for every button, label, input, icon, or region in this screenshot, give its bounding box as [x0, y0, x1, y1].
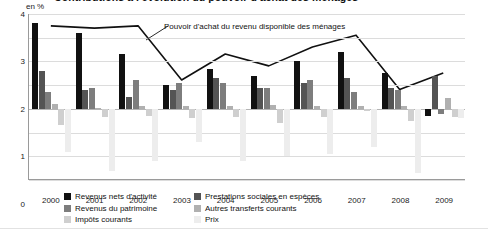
bar-2007-2 — [351, 92, 357, 109]
legend-label: Impôts courants — [75, 215, 132, 224]
bar-2003-3 — [183, 106, 189, 108]
bar-2002-3 — [139, 106, 145, 108]
bar-2006-3 — [314, 106, 320, 108]
bar-2001-1 — [82, 90, 88, 109]
bar-2002-5 — [152, 109, 158, 161]
bar-2008-1 — [388, 88, 394, 109]
bar-2000-0 — [32, 23, 38, 108]
bar-2005-1 — [257, 88, 263, 109]
legend-swatch-icon — [194, 193, 201, 200]
legend-swatch-icon — [194, 216, 201, 223]
x-axis-tick-2008: 2008 — [392, 196, 410, 205]
bar-2000-4 — [58, 109, 64, 126]
legend-label: Autres transferts courants — [205, 204, 297, 213]
legend-label: Prestations sociales en espèces — [205, 192, 319, 201]
chart-plot-area: 43210–1–2–3 2000200120022003200420052006… — [28, 14, 465, 180]
bar-2008-0 — [382, 73, 388, 109]
y-axis-tick: 2 — [21, 104, 25, 113]
legend-item-left-1[interactable]: Revenus du patrimoine — [64, 203, 157, 215]
bar-group-2005 — [248, 14, 292, 179]
bar-2009-2 — [438, 109, 444, 114]
bar-2001-5 — [109, 109, 115, 171]
bar-2001-2 — [89, 88, 95, 109]
bar-group-2009 — [422, 14, 466, 179]
bar-2005-0 — [251, 76, 257, 109]
bar-2009-1 — [432, 76, 438, 109]
bar-2005-4 — [277, 109, 283, 123]
bar-2008-3 — [401, 106, 407, 108]
bar-2001-4 — [102, 109, 108, 117]
bar-2008-4 — [408, 109, 414, 121]
bar-2005-3 — [270, 105, 276, 109]
y-axis-tick: 4 — [21, 10, 25, 19]
legend-item-right-2[interactable]: Prix — [194, 214, 319, 226]
bar-2002-2 — [133, 80, 139, 108]
bar-2004-3 — [227, 106, 233, 108]
bar-2004-2 — [220, 83, 226, 109]
annotation-label: Pouvoir d'achat du revenu disponible des… — [164, 22, 345, 31]
bar-2003-0 — [163, 85, 169, 109]
bar-2007-4 — [364, 109, 370, 111]
legend-item-left-0[interactable]: Revenus nets d'activité — [64, 191, 157, 203]
bar-2008-2 — [395, 90, 401, 109]
bar-2007-5 — [371, 109, 377, 147]
bar-2009-0 — [425, 109, 431, 116]
footer-divider — [0, 228, 488, 229]
bar-2006-0 — [294, 61, 300, 108]
bar-2006-2 — [307, 80, 313, 108]
legend-swatch-icon — [64, 193, 71, 200]
bar-2009-5 — [458, 109, 464, 118]
bar-2002-4 — [146, 109, 152, 116]
bar-2008-5 — [415, 109, 421, 173]
bar-2003-2 — [176, 83, 182, 109]
bar-2000-5 — [65, 109, 71, 152]
bar-2005-2 — [264, 88, 270, 109]
bar-group-2006 — [291, 14, 335, 179]
bar-2002-0 — [119, 54, 125, 109]
bar-2004-0 — [207, 69, 213, 109]
legend-column-left: Revenus nets d'activitéRevenus du patrim… — [64, 191, 157, 226]
bar-group-2001 — [73, 14, 117, 179]
bar-2007-3 — [358, 106, 364, 108]
x-axis-tick-2009: 2009 — [435, 196, 453, 205]
legend-swatch-icon — [64, 216, 71, 223]
bar-2003-4 — [189, 109, 195, 118]
legend-column-right: Prestations sociales en espècesAutres tr… — [194, 191, 319, 226]
y-axis-tick: 0 — [21, 199, 25, 208]
bar-group-2008 — [379, 14, 423, 179]
bar-group-2007 — [335, 14, 379, 179]
legend-item-right-1[interactable]: Autres transferts courants — [194, 203, 319, 215]
bar-2009-3 — [445, 98, 451, 109]
page-title: Contributions à l'évolution du pouvoir d… — [54, 0, 358, 3]
bar-group-2004 — [204, 14, 248, 179]
bar-2007-0 — [338, 52, 344, 109]
legend-label: Prix — [205, 215, 219, 224]
bar-2003-5 — [196, 109, 202, 142]
x-axis-tick-2000: 2000 — [42, 196, 60, 205]
y-axis-tick: 3 — [21, 57, 25, 66]
bar-2006-5 — [327, 109, 333, 154]
legend-item-left-2[interactable]: Impôts courants — [64, 214, 157, 226]
plot-inner: 43210–1–2–3 — [29, 14, 465, 179]
bar-2000-1 — [39, 71, 45, 109]
bar-2000-2 — [45, 92, 51, 109]
bar-2002-1 — [126, 97, 132, 109]
bar-2004-5 — [240, 109, 246, 161]
legend-label: Revenus nets d'activité — [75, 192, 157, 201]
legend-swatch-icon — [194, 205, 201, 212]
bar-2006-1 — [301, 83, 307, 109]
legend-item-right-0[interactable]: Prestations sociales en espèces — [194, 191, 319, 203]
bar-2001-3 — [95, 108, 101, 109]
bar-2009-4 — [452, 109, 458, 117]
legend-label: Revenus du patrimoine — [75, 204, 157, 213]
gridline--3: –3 — [29, 180, 465, 181]
bar-2005-5 — [284, 109, 290, 156]
bar-2007-1 — [344, 78, 350, 109]
bar-2004-4 — [233, 109, 239, 117]
legend-swatch-icon — [64, 205, 71, 212]
y-axis-unit-label: en % — [26, 2, 44, 11]
bar-2006-4 — [321, 109, 327, 117]
chart-legend: Revenus nets d'activitéRevenus du patrim… — [64, 191, 394, 227]
bar-2001-0 — [76, 33, 82, 109]
y-axis-tick: 1 — [21, 152, 25, 161]
